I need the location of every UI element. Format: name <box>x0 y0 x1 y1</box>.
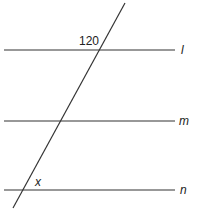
angle-label-x: x <box>34 175 42 189</box>
line-label-l: l <box>181 43 184 57</box>
angle-label-120: 120 <box>79 34 99 48</box>
transversal-line <box>13 3 125 208</box>
line-label-n: n <box>180 183 187 197</box>
line-label-m: m <box>179 114 189 128</box>
diagram-canvas: 120 x l m n <box>0 0 197 215</box>
